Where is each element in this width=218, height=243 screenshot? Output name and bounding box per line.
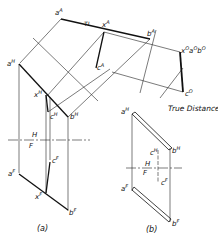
svg-text:H: H	[32, 131, 38, 139]
svg-text:cO: cO	[185, 88, 193, 98]
line-aF-bF	[19, 174, 68, 210]
svg-text:cF: cF	[52, 155, 59, 165]
svg-text:F: F	[143, 169, 148, 177]
svg-text:(a): (a)	[37, 224, 48, 233]
svg-text:cF: cF	[161, 177, 168, 187]
svg-text:bH: bH	[70, 111, 78, 121]
svg-text:cH: cH	[50, 111, 58, 121]
descriptive-geometry-figure: aA xA TL bA cA xOaObO cO aH xH cH bH H F…	[0, 0, 218, 243]
svg-text:cA: cA	[97, 62, 105, 72]
fold-line-HA	[33, 38, 98, 101]
svg-text:bH: bH	[172, 145, 180, 155]
projector-x	[47, 32, 104, 96]
callout-leader	[160, 68, 183, 98]
line-xF-cF	[46, 162, 50, 193]
svg-text:True Distance: True Distance	[168, 104, 218, 113]
svg-text:xOaObO: xOaObO	[180, 45, 206, 55]
plate-front-view	[132, 187, 171, 222]
svg-text:aA: aA	[55, 7, 63, 17]
projector-a	[20, 19, 61, 63]
svg-text:aF: aF	[8, 168, 15, 178]
svg-text:aF: aF	[121, 183, 128, 193]
line-xO-cO	[180, 52, 183, 92]
svg-text:xH: xH	[33, 89, 42, 99]
svg-text:aH: aH	[7, 58, 15, 68]
svg-text:(b): (b)	[146, 225, 157, 234]
svg-text:xA: xA	[101, 19, 110, 29]
projector-xO	[104, 32, 180, 52]
projector-b	[68, 39, 150, 117]
svg-text:aH: aH	[121, 106, 129, 116]
svg-text:xF: xF	[34, 191, 42, 201]
svg-text:cH: cH	[150, 147, 158, 157]
plate-top-view	[132, 112, 172, 150]
svg-text:bF: bF	[172, 218, 179, 228]
svg-text:F: F	[29, 142, 34, 150]
svg-text:H: H	[145, 160, 151, 168]
line-aH-bH	[19, 64, 68, 117]
svg-text:bF: bF	[69, 207, 76, 217]
svg-text:TL: TL	[84, 20, 91, 27]
